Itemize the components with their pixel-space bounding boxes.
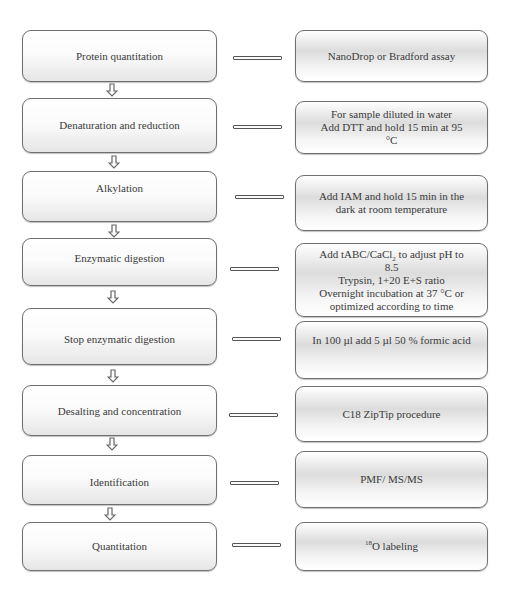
detail-text: In 100 µl add 5 µl 50 % formic acid (306, 334, 476, 347)
down-arrow-icon (107, 369, 119, 383)
step-box-protein-quantitation: Protein quantitation (22, 30, 217, 82)
step-box-stop-digestion: Stop enzymatic digestion (22, 308, 217, 365)
step-box-denaturation-reduction: Denaturation and reduction (22, 98, 217, 153)
down-arrow-icon (107, 290, 119, 304)
superscript: 18 (365, 539, 372, 547)
connector (232, 543, 281, 547)
detail-box-desalting: C18 ZipTip procedure (295, 386, 488, 442)
detail-box-stop-digestion: In 100 µl add 5 µl 50 % formic acid (295, 321, 488, 379)
detail-box-protein-quantitation: NanoDrop or Bradford assay (295, 30, 488, 82)
connector (229, 413, 278, 417)
step-box-enzymatic-digestion: Enzymatic digestion (22, 238, 217, 286)
connector (232, 337, 281, 341)
detail-text: 18O labeling (359, 540, 424, 553)
detail-text: PMF/ MS/MS (354, 473, 429, 486)
step-label: Enzymatic digestion (68, 252, 170, 265)
step-label: Stop enzymatic digestion (58, 333, 181, 346)
connector (233, 56, 282, 60)
connector (230, 267, 279, 271)
down-arrow-icon (108, 155, 120, 169)
detail-box-denaturation-reduction: For sample diluted in water Add DTT and … (295, 101, 488, 154)
down-arrow-icon (108, 224, 120, 238)
step-label: Identification (84, 476, 155, 489)
detail-box-enzymatic-digestion: Add tABC/CaCl2 to adjust pH to 8.5 Tryps… (295, 243, 488, 317)
step-label: Desalting and concentration (52, 405, 187, 418)
step-label: Quantitation (86, 540, 153, 553)
detail-box-quantitation: 18O labeling (295, 522, 488, 571)
detail-text: C18 ZipTip procedure (337, 408, 447, 421)
detail-box-identification: PMF/ MS/MS (295, 451, 488, 508)
step-label: Alkylation (90, 182, 149, 195)
detail-box-alkylation: Add IAM and hold 15 min in the dark at r… (295, 175, 488, 231)
detail-text-part: O labeling (372, 540, 418, 552)
step-label: Protein quantitation (70, 50, 169, 63)
down-arrow-icon (106, 437, 118, 451)
step-box-desalting: Desalting and concentration (22, 385, 217, 436)
connector (230, 481, 279, 485)
detail-text: Add tABC/CaCl2 to adjust pH to 8.5 Tryps… (313, 248, 470, 313)
down-arrow-icon (106, 83, 118, 97)
step-box-alkylation: Alkylation (22, 171, 217, 222)
detail-text: NanoDrop or Bradford assay (322, 50, 461, 63)
detail-text-part: Add tABC/CaCl (319, 248, 392, 260)
detail-text: Add IAM and hold 15 min in the dark at r… (313, 190, 470, 216)
detail-text: For sample diluted in water Add DTT and … (315, 108, 469, 147)
step-box-quantitation: Quantitation (22, 522, 217, 571)
down-arrow-icon (104, 507, 116, 521)
step-label: Denaturation and reduction (53, 119, 185, 132)
step-box-identification: Identification (22, 455, 217, 505)
connector (235, 195, 284, 199)
connector (233, 125, 282, 129)
